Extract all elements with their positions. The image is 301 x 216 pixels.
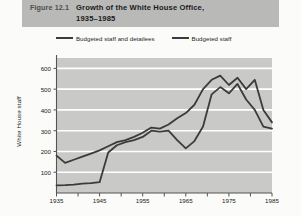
x-axis-tick-label: 1935 xyxy=(44,197,70,204)
x-axis-tick-label: 1945 xyxy=(87,197,113,204)
y-axis-tick-labels: 100200300400500600 xyxy=(29,0,51,216)
y-axis-tick-label: 600 xyxy=(29,65,51,72)
x-axis-tick-label: 1985 xyxy=(259,197,285,204)
y-axis-tick-label: 500 xyxy=(29,86,51,93)
chart-plot-area: White House staff 100200300400500600 193… xyxy=(0,0,301,216)
y-axis-tick-label: 200 xyxy=(29,148,51,155)
y-axis-tick-label: 100 xyxy=(29,169,51,176)
y-axis-tick-label: 300 xyxy=(29,127,51,134)
x-axis-tick-label: 1955 xyxy=(130,197,156,204)
y-axis-tick-label: 400 xyxy=(29,106,51,113)
x-axis-tick-label: 1975 xyxy=(216,197,242,204)
figure-container: Figure 12.1 Growth of the White House Of… xyxy=(0,0,301,216)
x-axis-tick-label: 1965 xyxy=(173,197,199,204)
x-axis-tick-labels: 193519451955196519751985 xyxy=(0,197,301,209)
